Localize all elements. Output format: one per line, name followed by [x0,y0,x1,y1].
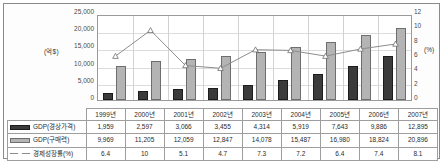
table-year-header-cell: 2001년 [164,109,203,121]
y-tick-right: 10 [414,23,421,30]
table-value-cell: 5,919 [281,121,320,134]
y-tick-right: 4 [414,66,418,73]
y-tick-left: 15,000 [74,43,94,50]
table-value-cell: 7.3 [242,147,281,160]
table-legend-label: 경제성장률(%) [33,150,73,157]
table-row: 경제성장률(%)6.4105.14.77.37.26.47.48.1 [8,147,438,160]
table-value-cell: 20,896 [398,134,437,147]
plot-area-wrapper: (억$) (%) 25,00020,00015,00010,0005,0000 … [4,4,441,108]
table-legend-cell: GDP(경상가격) [8,121,87,134]
table-value-cell: 9,969 [86,134,125,147]
table-legend-cell: GDP(구매력) [8,134,87,147]
table-value-cell: 15,487 [281,134,320,147]
table-year-header-cell: 2005년 [320,109,359,121]
table-value-cell: 10 [125,147,164,160]
table-value-cell: 3,455 [203,121,242,134]
table-value-cell: 2,597 [125,121,164,134]
table-corner-cell [8,109,87,121]
triangle-marker-icon [17,151,23,155]
table-value-cell: 18,824 [359,134,398,147]
table-year-header-cell: 2000년 [125,109,164,121]
table-row: GDP(경상가격)1,9592,5973,0663,4554,3145,9197… [8,121,438,134]
table-year-header-cell: 2004년 [281,109,320,121]
ppp-swatch-icon [10,138,30,143]
table-value-cell: 6.4 [86,147,125,160]
table-value-cell: 12,847 [203,134,242,147]
table-value-cell: 9,886 [359,121,398,134]
plot-canvas [97,15,412,101]
table-legend-label: GDP(구매력) [33,137,69,144]
table-value-cell: 12,059 [164,134,203,147]
chart-frame: (억$) (%) 25,00020,00015,00010,0005,0000 … [3,3,440,159]
line-legend-icon [10,151,30,156]
table-value-cell: 4.7 [203,147,242,160]
y-tick-right: 6 [414,52,418,59]
table-value-cell: 16,980 [320,134,359,147]
table-year-header-cell: 2006년 [359,109,398,121]
table-value-cell: 6.4 [320,147,359,160]
table-legend-label: GDP(경상가격) [33,123,75,130]
table-value-cell: 1,959 [86,121,125,134]
table-year-header-cell: 2002년 [203,109,242,121]
y-tick-left: 0 [90,95,94,102]
table-value-cell: 8.1 [398,147,437,160]
table-value-cell: 12,895 [398,121,437,134]
table-value-cell: 7.4 [359,147,398,160]
table-year-header-cell: 1999년 [86,109,125,121]
table-value-cell: 5.1 [164,147,203,160]
y-tick-right: 12 [414,9,421,16]
table-value-cell: 7,643 [320,121,359,134]
y-tick-right: 0 [414,95,418,102]
table-value-cell: 7.2 [281,147,320,160]
table-value-cell: 3,066 [164,121,203,134]
y-tick-left: 10,000 [74,61,94,68]
table-year-header-cell: 2007년 [398,109,437,121]
nominal-swatch-icon [10,125,30,130]
table-value-cell: 4,314 [242,121,281,134]
line-marker-triangle [148,28,154,33]
table-value-cell: 11,205 [125,134,164,147]
y-axis-right-ticks: 121086420 [414,12,428,104]
y-tick-left: 20,000 [74,26,94,33]
y-tick-left: 25,000 [74,9,94,16]
table-year-header-row: 1999년2000년2001년2002년2003년2004년2005년2006년… [8,109,438,121]
y-tick-left: 5,000 [78,78,94,85]
growth-rate-line-series [98,16,413,102]
y-tick-right: 8 [414,38,418,45]
y-axis-left-ticks: 25,00020,00015,00010,0005,0000 [56,12,94,104]
line-marker-triangle [393,41,399,46]
table-year-header-cell: 2003년 [242,109,281,121]
table-value-cell: 14,078 [242,134,281,147]
y-tick-right: 2 [414,81,418,88]
data-table: 1999년2000년2001년2002년2003년2004년2005년2006년… [7,108,438,161]
table-legend-cell: 경제성장률(%) [8,147,87,160]
table-row: GDP(구매력)9,96911,20512,05912,84714,07815,… [8,134,438,147]
